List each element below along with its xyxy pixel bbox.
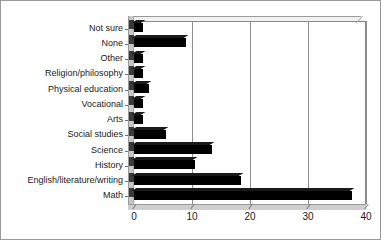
- bar[interactable]: [134, 23, 143, 32]
- y-axis-tick-label: Not sure: [89, 23, 123, 33]
- bar[interactable]: [134, 54, 143, 63]
- y-axis-tick-label: History: [95, 160, 123, 170]
- bar[interactable]: [134, 145, 212, 154]
- bar-row: [134, 189, 366, 203]
- bar-top-face: [132, 35, 189, 38]
- bar-row: [134, 128, 366, 142]
- bar-top-face: [132, 81, 151, 84]
- x-axis-tick: [248, 204, 253, 209]
- y-axis-tick-label: None: [101, 38, 123, 48]
- bar-row: [134, 143, 366, 157]
- bar-top-face: [132, 20, 145, 23]
- bar-top-face: [132, 188, 354, 191]
- x-axis-tick-label: 40: [360, 211, 371, 222]
- y-axis-labels: Not sureNoneOtherReligion/philosophyPhys…: [1, 21, 129, 204]
- bar-top-face: [132, 66, 145, 69]
- y-axis-tick-label: Vocational: [81, 99, 123, 109]
- x-axis-tick-label: 10: [186, 211, 197, 222]
- y-axis-tick-label: Religion/philosophy: [45, 68, 123, 78]
- y-axis-tick-label: Science: [91, 145, 123, 155]
- x-axis-tick: [306, 204, 311, 209]
- bar-row: [134, 174, 366, 188]
- x-axis-tick-label: 20: [244, 211, 255, 222]
- y-axis-tick-label: Social studies: [67, 129, 123, 139]
- gridline-40: [366, 21, 367, 204]
- x-axis: 010203040: [134, 204, 374, 234]
- bar-row: [134, 67, 366, 81]
- y-axis-tick-label: Other: [100, 53, 123, 63]
- y-axis-tick-label: English/literature/writing: [27, 175, 123, 185]
- bar-row: [134, 36, 366, 50]
- bar[interactable]: [134, 191, 352, 200]
- y-axis-tick-label: Arts: [107, 114, 123, 124]
- bar-row: [134, 113, 366, 127]
- bar[interactable]: [134, 38, 186, 47]
- bar-row: [134, 158, 366, 172]
- bar[interactable]: [134, 69, 143, 78]
- bar[interactable]: [134, 84, 149, 93]
- bar-row: [134, 21, 366, 35]
- bar-top-face: [132, 173, 244, 176]
- y-axis-tick-label: Math: [103, 190, 123, 200]
- chart-frame: Not sureNoneOtherReligion/philosophyPhys…: [0, 0, 381, 240]
- bar-top-face: [132, 157, 198, 160]
- y-axis-tick-label: Physical education: [48, 84, 123, 94]
- plot-area: [134, 21, 366, 204]
- bar[interactable]: [134, 176, 241, 185]
- x-axis-tick-label: 0: [131, 211, 137, 222]
- x-axis-tick-label: 30: [302, 211, 313, 222]
- bar-row: [134, 52, 366, 66]
- x-axis-tick: [190, 204, 195, 209]
- x-axis-tick: [364, 204, 369, 209]
- bar[interactable]: [134, 99, 143, 108]
- bar-top-face: [132, 142, 215, 145]
- bar-top-face: [132, 96, 145, 99]
- bar[interactable]: [134, 115, 143, 124]
- bar-row: [134, 97, 366, 111]
- bar-top-face: [132, 127, 169, 130]
- bar[interactable]: [134, 160, 195, 169]
- bar-row: [134, 82, 366, 96]
- bar[interactable]: [134, 130, 166, 139]
